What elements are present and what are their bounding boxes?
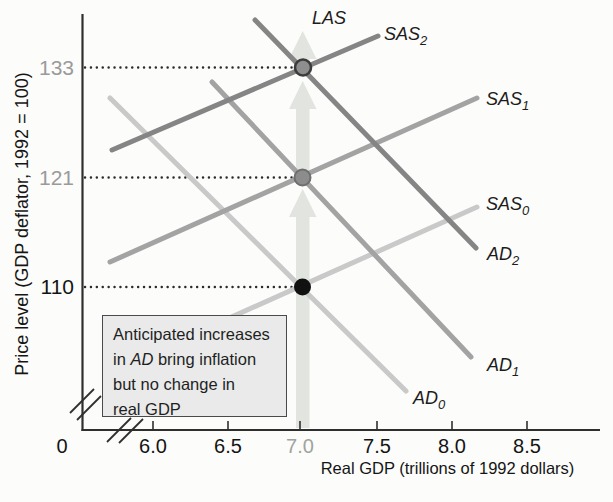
x-tick-label-7.5: 7.5	[357, 435, 397, 458]
x-tick-label-6.0: 6.0	[133, 435, 173, 458]
y-tick-label-110: 110	[26, 275, 74, 299]
sas2-curve	[112, 36, 378, 150]
sas1-label-sub: 1	[522, 98, 529, 113]
chart-canvas	[0, 0, 613, 502]
annotation-line-3: but no change in	[113, 375, 235, 393]
ad1-label-sub: 1	[512, 364, 519, 379]
equilibrium-dot-110	[294, 279, 311, 296]
curve-label-las: LAS	[312, 8, 346, 32]
annotation-line-1: Anticipated increases	[113, 325, 270, 343]
ad2-label-text: AD	[487, 244, 512, 264]
sas2-label-text: SAS	[384, 24, 420, 44]
y-tick-label-133: 133	[26, 56, 74, 80]
x-tick-label-8.5: 8.5	[507, 435, 547, 458]
y-tick-label-121: 121	[26, 166, 74, 190]
annotation-line-2-post: bring inflation	[153, 350, 256, 368]
x-tick-marks	[153, 421, 527, 430]
annotation-box: Anticipated increases in AD bring inflat…	[102, 315, 287, 417]
ad2-curve	[255, 20, 476, 248]
annotation-line-2-pre: in	[113, 350, 130, 368]
y-axis-break-slash-2	[77, 396, 101, 420]
sas1-label-text: SAS	[486, 89, 522, 109]
curve-label-ad2: AD2	[487, 244, 519, 268]
sas1-curve	[110, 98, 477, 262]
curve-label-sas0: SAS0	[486, 194, 529, 218]
annotation-line-4: real GDP	[113, 400, 181, 418]
curve-label-ad0: AD0	[413, 388, 445, 412]
x-axis-title: Real GDP (trillions of 1992 dollars)	[295, 459, 600, 478]
ad2-label-sub: 2	[512, 253, 519, 268]
las-arrow-band	[289, 31, 317, 428]
sas0-label-sub: 0	[522, 203, 529, 218]
las-arrow-segment-bottom	[289, 189, 317, 428]
ad0-label-text: AD	[413, 388, 438, 408]
x-tick-label-6.5: 6.5	[208, 435, 248, 458]
curve-label-sas1: SAS1	[486, 89, 529, 113]
equilibrium-dot-121	[295, 170, 311, 186]
equilibrium-dot-133	[295, 60, 311, 76]
curve-label-ad1: AD1	[487, 355, 519, 379]
sas0-label-text: SAS	[486, 194, 522, 214]
sas2-label-sub: 2	[420, 33, 427, 48]
x-tick-label-7.0: 7.0	[280, 435, 320, 458]
ad0-label-sub: 0	[438, 397, 445, 412]
x-tick-label-8.0: 8.0	[432, 435, 472, 458]
curve-label-sas2: SAS2	[384, 24, 427, 48]
annotation-ad-italic: AD	[130, 350, 153, 368]
las-label-text: LAS	[312, 8, 346, 28]
ad-as-inflation-chart: Price level (GDP deflator, 1992 = 100) R…	[0, 0, 613, 502]
ad1-label-text: AD	[487, 355, 512, 375]
origin-label: 0	[50, 435, 74, 458]
